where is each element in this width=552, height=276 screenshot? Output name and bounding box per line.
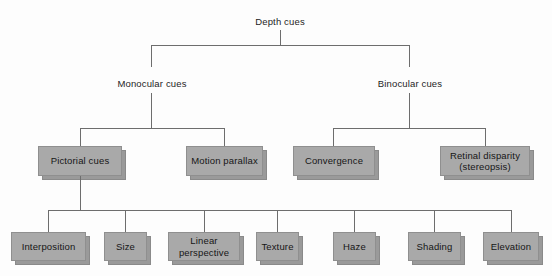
connector-drop-texture — [277, 210, 278, 232]
connector-drop-binocular — [409, 45, 410, 67]
connector-drop-motion-parallax — [224, 128, 225, 146]
box-motion-parallax: Motion parallax — [186, 146, 263, 176]
box-elevation-label: Elevation — [491, 241, 531, 253]
node-monocular-cues-label: Monocular cues — [117, 78, 186, 89]
connector-stem-monocular — [151, 93, 152, 129]
connector-drop-retinal-disparity — [485, 128, 486, 146]
box-linear-perspective-label-line1: Linear — [190, 235, 217, 247]
box-texture-label: Texture — [261, 241, 293, 253]
connector-bus-monocular — [80, 128, 225, 129]
connector-drop-pictorial — [80, 128, 81, 146]
connector-bus-binocular — [333, 128, 485, 129]
box-retinal-disparity-label-line1: Retinal disparity — [450, 150, 520, 162]
connector-stem-binocular — [409, 93, 410, 129]
box-haze: Haze — [333, 232, 376, 261]
depth-cues-diagram: Depth cues Monocular cues Binocular cues… — [0, 0, 552, 276]
box-motion-parallax-label: Motion parallax — [191, 155, 258, 167]
connector-bus-pictorial-children — [48, 210, 512, 211]
box-pictorial-cues: Pictorial cues — [38, 146, 122, 176]
box-convergence-label: Convergence — [305, 155, 363, 167]
connector-drop-monocular — [151, 45, 152, 67]
box-size: Size — [104, 232, 147, 261]
connector-drop-haze — [354, 210, 355, 232]
connector-drop-size — [125, 210, 126, 232]
connector-stem-pictorial-cues — [80, 176, 81, 211]
connector-drop-shading — [434, 210, 435, 232]
connector-drop-interposition — [48, 210, 49, 232]
box-size-label: Size — [116, 241, 135, 253]
node-depth-cues-label: Depth cues — [255, 16, 305, 27]
box-haze-label: Haze — [343, 241, 366, 253]
node-binocular-cues-label: Binocular cues — [378, 78, 442, 89]
box-elevation: Elevation — [483, 232, 539, 261]
connector-drop-convergence — [333, 128, 334, 146]
node-binocular-cues: Binocular cues — [365, 78, 455, 89]
box-linear-perspective-label-line2: perspective — [179, 247, 229, 259]
node-monocular-cues: Monocular cues — [107, 78, 197, 89]
connector-drop-elevation — [511, 210, 512, 232]
node-depth-cues: Depth cues — [236, 16, 324, 27]
box-interposition-label: Interposition — [22, 241, 76, 253]
box-shading-label: Shading — [417, 241, 453, 253]
connector-root-stem — [280, 30, 281, 46]
connector-drop-linear-perspective — [204, 210, 205, 232]
box-pictorial-cues-label: Pictorial cues — [51, 155, 110, 167]
connector-bus-level2 — [151, 45, 410, 46]
box-interposition: Interposition — [11, 232, 86, 261]
box-shading: Shading — [408, 232, 461, 261]
box-convergence: Convergence — [293, 146, 375, 176]
box-linear-perspective: Linear perspective — [168, 232, 240, 261]
box-retinal-disparity-label-line2: (stereopsis) — [459, 161, 510, 173]
box-texture: Texture — [256, 232, 299, 261]
box-retinal-disparity: Retinal disparity (stereopsis) — [440, 146, 530, 176]
